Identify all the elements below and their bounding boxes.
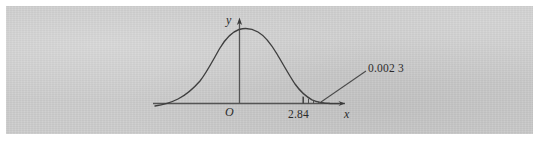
origin-label: O — [225, 106, 234, 118]
normal-density-curve — [155, 28, 339, 106]
critical-value-label: 2.84 — [288, 109, 309, 121]
figure-page: y O x 2.84 0.002 3 — [0, 0, 540, 143]
callout-leader-line — [321, 71, 366, 102]
normal-curve-figure — [0, 0, 540, 143]
x-axis-label: x — [344, 108, 349, 120]
y-axis-label: y — [226, 14, 231, 26]
tail-area-label: 0.002 3 — [368, 63, 404, 75]
